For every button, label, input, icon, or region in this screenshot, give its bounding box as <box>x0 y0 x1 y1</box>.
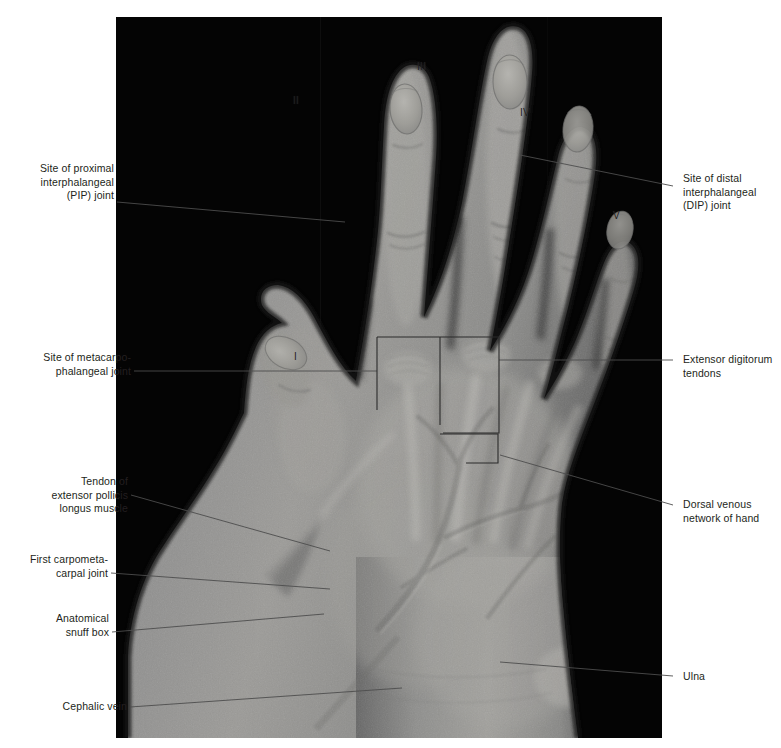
label-dorsal-venous-network: Dorsal venous network of hand <box>683 498 781 525</box>
anatomy-figure: I II III IV V <box>0 0 781 748</box>
digit-label-5: V <box>613 210 620 221</box>
label-first-cmc-joint: First carpometa- carpal joint <box>0 553 108 580</box>
label-dip-joint: Site of distal interphalangeal (DIP) joi… <box>683 172 781 213</box>
label-mcp-joint: Site of metacarpo- phalangeal joint <box>0 351 131 378</box>
hand-photo-graphic <box>116 17 662 738</box>
digit-label-1: I <box>294 351 297 362</box>
label-cephalic-vein: Cephalic vein <box>0 700 127 714</box>
digit-label-2: II <box>293 95 299 106</box>
hand-photograph: I II III IV V <box>116 17 662 738</box>
label-epl-tendon: Tendon of extensor pollicis longus muscl… <box>0 475 128 516</box>
figure-caption <box>382 739 781 748</box>
digit-label-3: III <box>417 61 426 72</box>
label-ulna: Ulna <box>683 670 781 684</box>
digit-label-4: IV <box>520 107 530 118</box>
label-pip-joint: Site of proximal interphalangeal (PIP) j… <box>0 162 114 203</box>
label-snuff-box: Anatomical snuff box <box>0 612 109 639</box>
label-extensor-digitorum-tendons: Extensor digitorum tendons <box>683 353 781 380</box>
